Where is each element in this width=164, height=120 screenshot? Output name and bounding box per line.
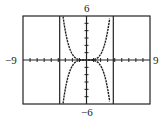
graph-window — [0, 0, 164, 120]
ymin-label: −6 — [81, 107, 93, 118]
xmin-label: −9 — [5, 55, 17, 66]
xmax-label: 9 — [153, 55, 159, 66]
ymax-label: 6 — [84, 3, 90, 14]
